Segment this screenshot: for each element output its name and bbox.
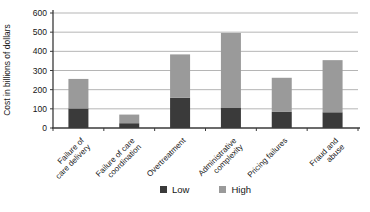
- legend-item-high: High: [219, 184, 251, 195]
- y-tick-label: 0: [42, 123, 47, 133]
- bar-segment-low: [68, 108, 88, 128]
- bar-segment-high: [68, 79, 88, 109]
- legend: LowHigh: [53, 184, 358, 195]
- bar-segment-low: [119, 123, 139, 128]
- category-label: Pricing failures: [246, 136, 289, 179]
- y-tick-label: 200: [33, 85, 47, 95]
- bar-segment-high: [170, 54, 190, 97]
- legend-item-low: Low: [160, 184, 189, 195]
- bar-segment-high: [119, 115, 139, 124]
- bar-segment-low: [170, 98, 190, 128]
- bar-segment-high: [221, 33, 241, 108]
- category-label: Failure of carecoordination: [94, 136, 143, 185]
- y-tick-label: 500: [33, 27, 47, 37]
- y-tick-label: 400: [33, 46, 47, 56]
- bar-segment-low: [221, 107, 241, 128]
- bar-segment-high: [323, 60, 343, 112]
- bar-segment-low: [272, 112, 292, 128]
- legend-swatch-high: [219, 186, 226, 193]
- y-axis-title: Cost in billions of dollars: [2, 24, 12, 116]
- chart-figure: 0100200300400500600Failure ofcare delive…: [0, 0, 370, 212]
- y-tick-label: 600: [33, 8, 47, 18]
- chart-svg: 0100200300400500600Failure ofcare delive…: [0, 0, 370, 212]
- legend-swatch-low: [160, 186, 167, 193]
- category-label: Fraud andabuse: [308, 136, 347, 175]
- legend-label-high: High: [231, 184, 251, 195]
- category-label: Overtreatment: [145, 136, 188, 179]
- y-tick-label: 100: [33, 104, 47, 114]
- plot-area: 0100200300400500600Failure ofcare delive…: [33, 8, 360, 185]
- bar-segment-low: [323, 112, 343, 128]
- y-tick-label: 300: [33, 66, 47, 76]
- bar-segment-high: [272, 78, 292, 112]
- legend-label-low: Low: [172, 184, 189, 195]
- category-label: Administrativecomplexity: [196, 136, 245, 185]
- category-label: Failure ofcare delivery: [47, 136, 92, 181]
